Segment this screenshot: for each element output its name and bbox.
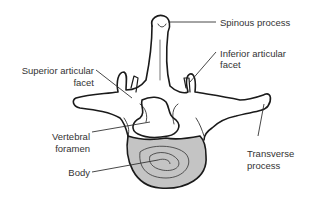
label-body: Body <box>0 167 90 178</box>
spinous-process-shape <box>152 15 271 140</box>
label-transverse-process-line2: process <box>247 160 280 171</box>
label-spinous-process: Spinous process <box>220 17 290 28</box>
vertebral-body-shape <box>127 136 206 188</box>
label-inferior-articular-facet-line2: facet <box>220 59 241 70</box>
label-transverse-process-line1: Transverse <box>247 148 294 159</box>
vertebral-foramen-shape <box>133 97 179 137</box>
label-superior-articular-facet-line2: facet <box>0 77 94 88</box>
vertebra-diagram: Spinous process Inferior articular facet… <box>0 0 313 201</box>
label-inferior-articular-facet-line1: Inferior articular <box>220 48 286 59</box>
label-vertebral-foramen-line2: foramen <box>0 143 90 154</box>
label-superior-articular-facet-line1: Superior articular <box>0 65 94 76</box>
label-vertebral-foramen-line1: Vertebral <box>0 131 90 142</box>
